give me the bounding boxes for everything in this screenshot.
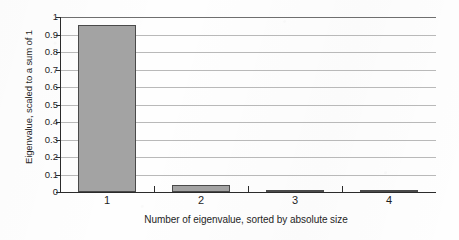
y-tick-mark xyxy=(56,70,61,71)
y-tick-mark xyxy=(56,122,61,123)
gridline xyxy=(60,17,436,18)
x-tick-mark xyxy=(248,186,249,192)
y-tick-mark xyxy=(56,52,61,53)
x-tick-label: 1 xyxy=(87,194,127,207)
y-tick-label: 0.6 xyxy=(30,82,58,92)
y-tick-label: 0.8 xyxy=(30,47,58,57)
y-tick-mark xyxy=(56,157,61,158)
bar xyxy=(78,25,136,192)
y-tick-mark xyxy=(56,192,61,193)
plot-area xyxy=(60,17,436,192)
y-tick-mark xyxy=(56,175,61,176)
x-tick-mark xyxy=(154,186,155,192)
y-tick-label: 0.2 xyxy=(30,152,58,162)
chart-figure: Eigenvalue, scaled to a sum of 1 00.10.2… xyxy=(0,0,459,240)
x-tick-label: 4 xyxy=(369,194,409,207)
x-tick-mark xyxy=(342,186,343,192)
y-tick-label: 1 xyxy=(30,12,58,22)
x-tick-label: 3 xyxy=(275,194,315,207)
x-axis-tick-labels: 1234 xyxy=(60,194,436,210)
bar xyxy=(266,190,324,192)
y-tick-label: 0.1 xyxy=(30,170,58,180)
y-tick-label: 0.9 xyxy=(30,30,58,40)
x-axis-label: Number of eigenvalue, sorted by absolute… xyxy=(56,214,436,225)
bar xyxy=(360,190,418,192)
y-tick-mark xyxy=(56,35,61,36)
y-tick-label: 0.3 xyxy=(30,135,58,145)
bar xyxy=(172,185,230,192)
gridline xyxy=(60,192,436,193)
y-tick-mark xyxy=(56,87,61,88)
y-tick-mark xyxy=(56,17,61,18)
y-tick-label: 0.7 xyxy=(30,65,58,75)
y-tick-label: 0 xyxy=(30,187,58,197)
y-axis-tick-labels: 00.10.20.30.40.50.60.70.80.91 xyxy=(30,0,58,240)
y-tick-label: 0.4 xyxy=(30,117,58,127)
y-tick-label: 0.5 xyxy=(30,100,58,110)
x-tick-label: 2 xyxy=(181,194,221,207)
y-tick-mark xyxy=(56,105,61,106)
y-tick-mark xyxy=(56,140,61,141)
